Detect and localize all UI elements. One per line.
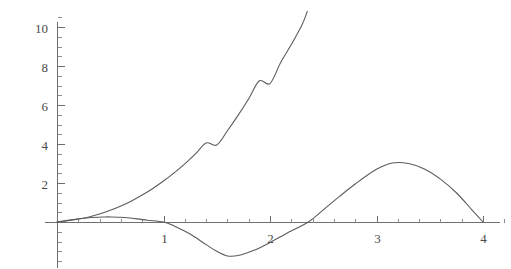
x-tick-label: 3 <box>374 231 381 246</box>
x-tick-label: 1 <box>161 231 168 246</box>
y-axis-group: 246810 <box>35 18 65 269</box>
plot-figure: 1234 246810 <box>0 0 511 269</box>
y-axis-minor-ticks <box>58 18 62 262</box>
y-axis-tick-labels: 246810 <box>35 21 49 192</box>
x-tick-label: 4 <box>480 231 487 246</box>
y-tick-label: 6 <box>42 99 49 114</box>
curve-oscillating <box>57 162 483 256</box>
y-tick-label: 8 <box>42 60 49 75</box>
curve-rising-exponential <box>57 11 307 222</box>
x-axis-tick-labels: 1234 <box>161 231 487 246</box>
y-tick-label: 4 <box>42 138 49 153</box>
plot-canvas: 1234 246810 <box>0 0 511 269</box>
x-axis-major-ticks <box>165 216 484 223</box>
x-axis-group: 1234 <box>45 216 505 247</box>
y-tick-label: 2 <box>42 177 49 192</box>
y-axis-major-ticks <box>58 28 65 184</box>
y-tick-label: 10 <box>35 21 48 36</box>
